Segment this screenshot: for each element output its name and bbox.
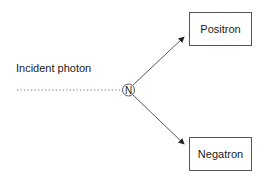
nucleus-symbol: N <box>125 85 132 96</box>
negatron-box: Negatron <box>189 137 252 171</box>
positron-label: Positron <box>200 23 240 35</box>
incident-photon-label: Incident photon <box>16 62 91 74</box>
negatron-label: Negatron <box>198 148 243 160</box>
positron-box: Positron <box>189 12 252 46</box>
negatron-arrow <box>133 95 184 144</box>
positron-arrow <box>133 37 184 85</box>
